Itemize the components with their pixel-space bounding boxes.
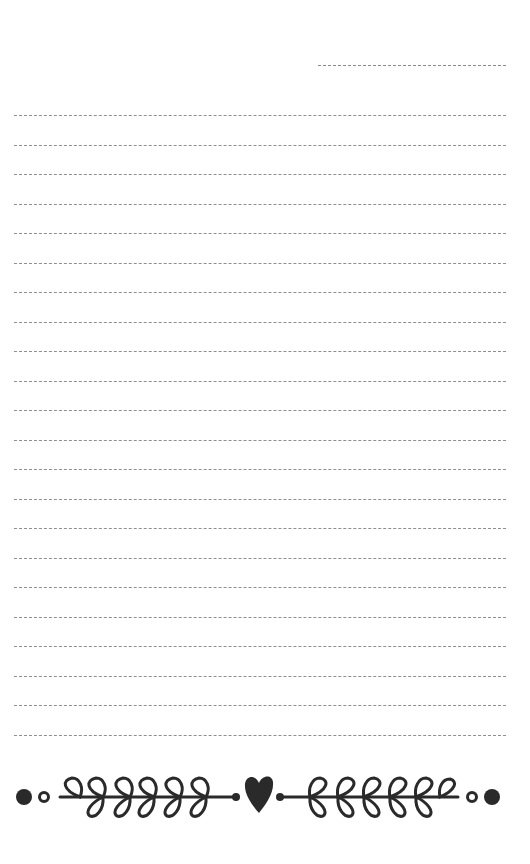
date-line[interactable]	[318, 65, 506, 66]
writing-line[interactable]	[14, 351, 506, 352]
heart-laurel-ornament-icon	[0, 762, 530, 834]
writing-line[interactable]	[14, 115, 506, 116]
writing-line[interactable]	[14, 587, 506, 588]
writing-line[interactable]	[14, 292, 506, 293]
writing-line[interactable]	[14, 322, 506, 323]
writing-line[interactable]	[14, 705, 506, 706]
writing-line[interactable]	[14, 440, 506, 441]
writing-line[interactable]	[14, 174, 506, 175]
writing-line[interactable]	[14, 410, 506, 411]
writing-line[interactable]	[14, 145, 506, 146]
writing-line[interactable]	[14, 646, 506, 647]
writing-line[interactable]	[14, 558, 506, 559]
writing-line[interactable]	[14, 263, 506, 264]
writing-line[interactable]	[14, 617, 506, 618]
writing-line[interactable]	[14, 676, 506, 677]
writing-line[interactable]	[14, 469, 506, 470]
writing-line[interactable]	[14, 528, 506, 529]
writing-line[interactable]	[14, 233, 506, 234]
writing-line[interactable]	[14, 204, 506, 205]
writing-line[interactable]	[14, 499, 506, 500]
writing-line[interactable]	[14, 381, 506, 382]
writing-line[interactable]	[14, 735, 506, 736]
